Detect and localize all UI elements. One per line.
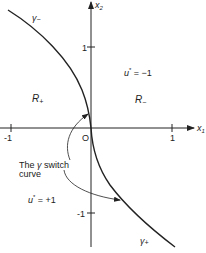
gamma-plus-label: γ+: [140, 236, 149, 246]
y-tick-label-plus-1: 1: [82, 43, 87, 53]
gamma-plus-curve: [91, 128, 175, 247]
origin-label: O: [82, 133, 89, 143]
switch-curve-diagram: -1 1 x1 1 -1 x2 O γ− γ+ R+ R− u* = −1 u*…: [0, 0, 206, 253]
y-tick-label-minus-1: -1: [77, 209, 85, 219]
x-tick-label-plus-1: 1: [170, 133, 175, 143]
y-axis-label: x2: [94, 0, 104, 11]
switch-curve-annotation-line2: curve: [19, 169, 41, 179]
u-star-plus-label: u* = +1: [28, 194, 56, 205]
x-axis: -1 1 x1: [0, 123, 205, 143]
region-r-plus-label: R+: [32, 93, 43, 105]
region-r-minus-label: R−: [135, 94, 146, 106]
leader-arrow-to-gamma-plus: [64, 170, 120, 200]
gamma-minus-curve: [8, 10, 91, 128]
u-star-minus-label: u* = −1: [124, 67, 152, 78]
gamma-minus-label: γ−: [32, 13, 41, 23]
x-tick-label-minus-1: -1: [4, 133, 12, 143]
x-axis-label: x1: [196, 123, 205, 134]
